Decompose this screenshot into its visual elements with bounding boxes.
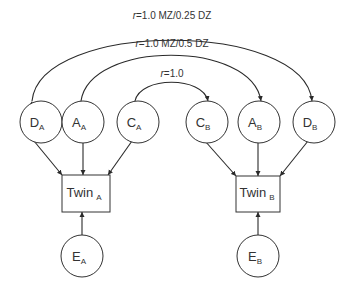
label-a-correlation: r=1.0 MZ/0.5 DZ	[135, 38, 208, 49]
node-e-b: EB	[237, 235, 279, 277]
arc-c-correlation	[135, 82, 208, 101]
label-d-correlation: r=1.0 MZ/0.25 DZ	[133, 10, 212, 21]
edge-ca-to-twina	[108, 141, 132, 175]
node-a-a: AA	[62, 101, 104, 143]
edge-cb-to-twinb	[205, 141, 236, 176]
label-c-correlation: r=1.0	[160, 68, 184, 79]
node-c-a: CA	[117, 101, 159, 143]
node-d-a: DA	[20, 101, 62, 143]
twin-model-diagram: r=1.0 MZ/0.25 DZ r=1.0 MZ/0.5 DZ r=1.0 D…	[0, 0, 342, 287]
node-c-b: CB	[186, 101, 228, 143]
node-d-b: DB	[293, 101, 335, 143]
node-twin-a: TwinA	[62, 175, 110, 212]
node-e-a: EA	[61, 235, 103, 277]
node-twin-b: TwinB	[236, 176, 280, 212]
node-a-b: AB	[238, 101, 280, 143]
edge-db-to-twinb	[280, 141, 308, 176]
edge-da-to-twina	[34, 141, 62, 175]
